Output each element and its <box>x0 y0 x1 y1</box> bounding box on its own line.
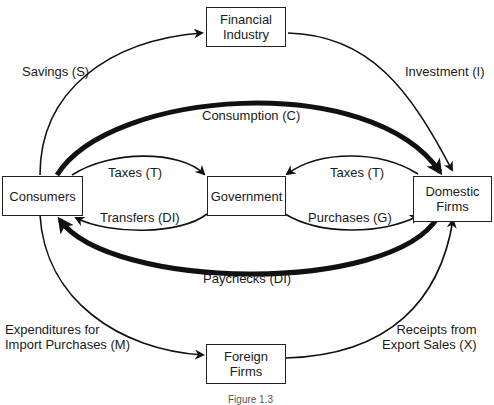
label-consumption: Consumption (C) <box>202 108 300 123</box>
paychecks-arrow <box>60 217 438 274</box>
label-investment: Investment (I) <box>405 64 484 79</box>
figure-caption: Figure 1.3 <box>228 394 273 405</box>
node-government: Government <box>207 176 286 216</box>
investment-arrow <box>288 33 452 170</box>
label-purchases: Purchases (G) <box>308 210 392 225</box>
node-consumers: Consumers <box>2 176 83 216</box>
label-paychecks: Paychecks (DI) <box>203 271 291 286</box>
node-foreign-firms: Foreign Firms <box>206 344 286 384</box>
label-transfers: Transfers (DI) <box>100 210 180 225</box>
node-financial-industry: Financial Industry <box>206 7 286 47</box>
label-taxes-consumers: Taxes (T) <box>108 165 162 180</box>
label-imports: Expenditures for Import Purchases (M) <box>5 322 130 352</box>
label-taxes-firms: Taxes (T) <box>330 165 384 180</box>
savings-arrow <box>40 33 202 175</box>
node-domestic-firms: Domestic Firms <box>413 176 492 222</box>
label-savings: Savings (S) <box>22 64 89 79</box>
label-exports: Receipts from Export Sales (X) <box>382 322 477 352</box>
